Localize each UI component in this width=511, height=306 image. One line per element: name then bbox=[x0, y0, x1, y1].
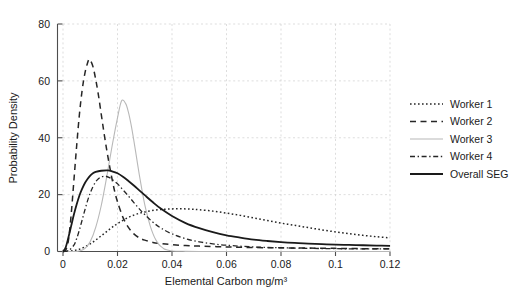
x-tick-label: 0.08 bbox=[271, 258, 292, 270]
legend-label: Worker 2 bbox=[450, 115, 493, 127]
y-tick-label: 0 bbox=[44, 245, 50, 257]
legend-item-overall-seg[interactable]: Overall SEG bbox=[410, 168, 508, 180]
x-tick-label: 0 bbox=[60, 258, 66, 270]
x-tick-label: 0.06 bbox=[216, 258, 237, 270]
y-axis-title: Probability Density bbox=[7, 92, 19, 184]
x-tick-label: 0.1 bbox=[328, 258, 343, 270]
y-axis: 020406080 bbox=[38, 18, 62, 257]
probability-density-chart: 00.020.040.060.080.10.12 020406080 Eleme… bbox=[0, 0, 511, 306]
series-curve-overall-seg bbox=[63, 170, 390, 251]
y-tick-label: 80 bbox=[38, 18, 50, 30]
x-tick-label: 0.12 bbox=[380, 258, 401, 270]
legend-label: Overall SEG bbox=[450, 168, 508, 180]
x-axis-title: Elemental Carbon mg/m³ bbox=[165, 275, 288, 287]
chart-svg: 00.020.040.060.080.10.12 020406080 Eleme… bbox=[0, 0, 511, 306]
legend-item-worker-1[interactable]: Worker 1 bbox=[410, 98, 493, 110]
legend-item-worker-4[interactable]: Worker 4 bbox=[410, 150, 493, 162]
x-tick-label: 0.02 bbox=[107, 258, 128, 270]
y-tick-label: 20 bbox=[38, 188, 50, 200]
legend-item-worker-2[interactable]: Worker 2 bbox=[410, 115, 493, 127]
legend: Worker 1Worker 2Worker 3Worker 4Overall … bbox=[410, 98, 508, 180]
gridlines bbox=[63, 24, 390, 252]
y-tick-label: 60 bbox=[38, 75, 50, 87]
legend-label: Worker 1 bbox=[450, 98, 493, 110]
x-tick-label: 0.04 bbox=[162, 258, 183, 270]
legend-label: Worker 3 bbox=[450, 133, 493, 145]
legend-item-worker-3[interactable]: Worker 3 bbox=[410, 133, 493, 145]
x-axis: 00.020.040.060.080.10.12 bbox=[60, 252, 400, 270]
y-tick-label: 40 bbox=[38, 132, 50, 144]
legend-label: Worker 4 bbox=[450, 150, 493, 162]
